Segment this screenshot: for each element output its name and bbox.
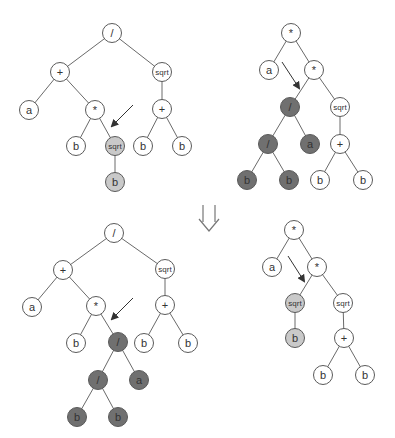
tree-node: a xyxy=(263,258,282,277)
node-label: + xyxy=(159,103,165,115)
tree-node: * xyxy=(86,101,105,120)
tree-node: * xyxy=(87,297,106,316)
tree-node: sqrt xyxy=(286,294,305,313)
node-label: a xyxy=(29,301,36,313)
tree-node: a xyxy=(301,135,320,154)
crossover-point-arrow-icon xyxy=(282,62,299,88)
tree-node: b xyxy=(311,171,330,190)
node-label: b xyxy=(244,174,250,186)
node-label: b xyxy=(141,337,147,349)
node-label: b xyxy=(185,337,191,349)
node-label: sqrt xyxy=(158,265,172,274)
node-label: b xyxy=(179,140,185,152)
node-label: sqrt xyxy=(288,299,302,308)
tree-node: + xyxy=(54,261,73,280)
node-label: sqrt xyxy=(155,68,169,77)
tree-node: b xyxy=(238,171,257,190)
node-label: b xyxy=(74,411,80,423)
tree-child-1: /+sqrta*+b/bb/abb xyxy=(23,224,198,427)
node-label: * xyxy=(93,104,98,116)
node-label: a xyxy=(26,104,33,116)
tree-node: / xyxy=(89,371,108,390)
tree-node: b xyxy=(106,173,125,192)
node-label: * xyxy=(289,27,294,39)
tree-node: / xyxy=(109,333,128,352)
node-label: b xyxy=(317,174,323,186)
tree-node: + xyxy=(331,135,350,154)
tree-node: sqrt xyxy=(156,260,175,279)
tree-node: sqrt xyxy=(334,294,353,313)
node-label: sqrt xyxy=(108,142,122,151)
tree-node: b xyxy=(68,408,87,427)
crossover-point-arrow-icon xyxy=(112,298,133,319)
tree-node: b xyxy=(314,366,333,385)
diagram-svg: /+sqrta*+bsqrtbbb*a*/sqrt/a+bbbb/+sqrta*… xyxy=(0,0,395,438)
node-label: b xyxy=(115,411,121,423)
tree-node: + xyxy=(51,63,70,82)
tree-node: + xyxy=(335,329,354,348)
tree-node: / xyxy=(259,135,278,154)
node-label: + xyxy=(341,332,347,344)
tree-parent-1: /+sqrta*+bsqrtbbb xyxy=(20,24,192,192)
node-label: b xyxy=(292,332,298,344)
tree-node: b xyxy=(135,334,154,353)
down-double-arrow-icon xyxy=(199,205,219,231)
tree-node: a xyxy=(260,61,279,80)
tree-node: b xyxy=(134,137,153,156)
tree-node: + xyxy=(153,100,172,119)
node-label: a xyxy=(266,64,273,76)
node-label: a xyxy=(269,261,276,273)
tree-node: a xyxy=(130,371,149,390)
tree-node: / xyxy=(281,98,300,117)
tree-child-2: *a*sqrtsqrtb+bb xyxy=(263,221,375,385)
tree-node: * xyxy=(285,221,304,240)
node-label: b xyxy=(140,140,146,152)
crossover-point-arrow-icon xyxy=(112,105,133,126)
tree-node: b xyxy=(356,366,375,385)
tree-node: sqrt xyxy=(153,63,172,82)
node-label: * xyxy=(312,64,317,76)
node-label: + xyxy=(162,299,168,311)
tree-node: sqrt xyxy=(106,137,125,156)
tree-node: b xyxy=(179,334,198,353)
node-label: * xyxy=(292,224,297,236)
node-label: + xyxy=(57,66,63,78)
node-label: + xyxy=(337,138,343,150)
tree-node: b xyxy=(67,137,86,156)
node-label: * xyxy=(315,261,320,273)
tree-node: * xyxy=(282,24,301,43)
tree-parent-2: *a*/sqrt/a+bbbb xyxy=(238,24,373,190)
node-label: + xyxy=(60,264,66,276)
tree-node: b xyxy=(354,171,373,190)
tree-node: / xyxy=(103,24,122,43)
node-label: b xyxy=(360,174,366,186)
tree-node: a xyxy=(23,298,42,317)
node-label: b xyxy=(320,369,326,381)
tree-node: sqrt xyxy=(331,98,350,117)
tree-node: * xyxy=(308,258,327,277)
tree-node: a xyxy=(20,101,39,120)
tree-node: / xyxy=(105,224,124,243)
node-label: sqrt xyxy=(336,299,350,308)
tree-node: b xyxy=(280,171,299,190)
tree-node: b xyxy=(173,137,192,156)
node-label: b xyxy=(286,174,292,186)
node-label: b xyxy=(362,369,368,381)
node-label: b xyxy=(73,140,79,152)
tree-node: b xyxy=(109,408,128,427)
crossover-diagram: /+sqrta*+bsqrtbbb*a*/sqrt/a+bbbb/+sqrta*… xyxy=(0,0,395,438)
node-label: * xyxy=(94,300,99,312)
node-label: a xyxy=(136,374,143,386)
node-label: sqrt xyxy=(333,103,347,112)
tree-node: * xyxy=(305,61,324,80)
tree-node: + xyxy=(156,296,175,315)
node-label: a xyxy=(307,138,314,150)
tree-node: b xyxy=(286,329,305,348)
node-label: b xyxy=(112,176,118,188)
crossover-point-arrow-icon xyxy=(288,256,304,281)
tree-node: b xyxy=(67,334,86,353)
node-label: b xyxy=(73,337,79,349)
